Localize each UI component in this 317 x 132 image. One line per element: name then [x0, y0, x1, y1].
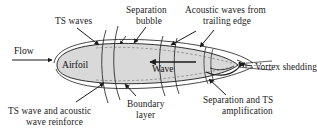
label-wave: Wave: [152, 64, 174, 74]
label-separation-ts-line2: amplification: [222, 106, 273, 117]
leader-upper-tick: [120, 36, 126, 44]
label-separation-bubble-line2: bubble: [136, 16, 162, 27]
leader-acoustic-2: [200, 30, 214, 47]
leader-boundary-layer: [125, 84, 136, 96]
label-vortex-shedding: Vortex shedding: [255, 62, 317, 73]
label-boundary-layer-line2: layer: [136, 110, 155, 121]
label-airfoil: Airfoil: [62, 60, 88, 70]
airfoil-flow-diagram: TS waves Separation bubble Acoustic wave…: [0, 0, 317, 132]
label-ts-reinforce-line2: wave reinforce: [26, 117, 83, 128]
leader-separation-bubble: [134, 27, 146, 43]
label-flow: Flow: [14, 46, 34, 56]
label-separation-ts-line1: Separation and TS: [203, 95, 273, 106]
leader-separation-ts: [209, 79, 226, 95]
label-acoustic-waves-line2: trailing edge: [203, 16, 251, 27]
label-acoustic-waves-line1: Acoustic waves from: [185, 5, 266, 16]
label-ts-reinforce-line1: TS wave and acoustic: [8, 106, 91, 117]
label-separation-bubble-line1: Separation: [126, 5, 167, 16]
label-boundary-layer-line1: Boundary: [127, 99, 164, 110]
label-ts-waves: TS waves: [55, 16, 92, 27]
